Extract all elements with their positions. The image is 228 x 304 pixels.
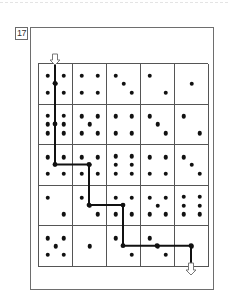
- pip-dot: [130, 253, 135, 258]
- pip-dot: [96, 90, 101, 95]
- pip-dot: [87, 163, 92, 168]
- top-dashed-rule: [0, 2, 228, 3]
- pip-dot: [155, 244, 160, 249]
- pip-dot: [155, 122, 160, 127]
- pip-dot: [80, 171, 85, 176]
- pip-dot: [114, 154, 119, 159]
- die-cell[interactable]: [107, 64, 141, 105]
- pip-dot: [62, 253, 67, 258]
- die-cell[interactable]: [175, 226, 209, 267]
- die-cell[interactable]: [39, 105, 73, 146]
- pip-dot: [96, 171, 101, 176]
- pip-dot: [130, 114, 135, 119]
- pip-dot: [80, 195, 85, 200]
- pip-dot: [148, 155, 153, 160]
- pip-dot: [182, 155, 187, 160]
- pip-dot: [182, 195, 187, 200]
- pip-dot: [148, 236, 153, 241]
- pip-dot: [198, 171, 203, 176]
- pip-dot: [198, 131, 203, 136]
- pip-dot: [114, 171, 119, 176]
- die-cell[interactable]: [175, 105, 209, 146]
- die-cell[interactable]: [141, 105, 175, 146]
- pip-dot: [46, 131, 51, 136]
- die-cell[interactable]: [39, 186, 73, 227]
- die-cell[interactable]: [39, 226, 73, 267]
- pip-dot: [130, 163, 135, 168]
- pip-dot: [53, 82, 58, 87]
- die-cell[interactable]: [107, 226, 141, 267]
- pip-dot: [62, 90, 67, 95]
- pip-dot: [148, 74, 153, 79]
- pip-dot: [46, 74, 51, 79]
- die-cell[interactable]: [141, 186, 175, 227]
- pip-dot: [114, 163, 119, 168]
- pip-dot: [46, 90, 51, 95]
- pip-dot: [164, 253, 169, 258]
- pip-dot: [114, 74, 119, 79]
- pip-dot: [80, 74, 85, 79]
- pip-dot: [164, 155, 169, 160]
- pip-dot: [182, 203, 187, 208]
- pip-dot: [114, 236, 119, 241]
- pip-dot: [87, 122, 92, 127]
- pip-dot: [164, 171, 169, 176]
- pip-dot: [130, 212, 135, 217]
- die-cell[interactable]: [175, 64, 209, 105]
- dice-grid: [38, 63, 208, 267]
- pip-dot: [46, 155, 51, 160]
- pip-dot: [189, 163, 194, 168]
- pip-dot: [96, 131, 101, 136]
- pip-dot: [80, 114, 85, 119]
- die-cell[interactable]: [107, 186, 141, 227]
- pip-dot: [189, 82, 194, 87]
- pip-dot: [46, 171, 51, 176]
- pip-dot: [46, 253, 51, 258]
- pip-dot: [164, 212, 169, 217]
- die-cell[interactable]: [107, 145, 141, 186]
- pip-dot: [114, 131, 119, 136]
- pip-dot: [198, 195, 203, 200]
- pip-dot: [46, 195, 51, 200]
- pip-dot: [182, 114, 187, 119]
- die-cell[interactable]: [73, 64, 107, 105]
- die-cell[interactable]: [141, 64, 175, 105]
- pip-dot: [182, 212, 187, 217]
- pip-dot: [53, 244, 58, 249]
- pip-dot: [96, 114, 101, 119]
- die-cell[interactable]: [73, 105, 107, 146]
- pip-dot: [130, 171, 135, 176]
- pip-dot: [114, 195, 119, 200]
- pip-dot: [130, 154, 135, 159]
- die-cell[interactable]: [39, 64, 73, 105]
- pip-dot: [46, 122, 51, 127]
- puzzle-number-label: 17: [15, 27, 28, 40]
- pip-dot: [46, 113, 51, 118]
- pip-dot: [198, 203, 203, 208]
- die-cell[interactable]: [39, 145, 73, 186]
- pip-dot: [62, 171, 67, 176]
- pip-dot: [62, 131, 67, 136]
- die-cell[interactable]: [175, 186, 209, 227]
- pip-dot: [164, 195, 169, 200]
- pip-dot: [164, 90, 169, 95]
- pip-dot: [155, 203, 160, 208]
- pip-dot: [62, 113, 67, 118]
- die-cell[interactable]: [141, 145, 175, 186]
- pip-dot: [96, 74, 101, 79]
- pip-dot: [189, 244, 194, 249]
- pip-dot: [114, 114, 119, 119]
- pip-dot: [148, 212, 153, 217]
- die-cell[interactable]: [73, 226, 107, 267]
- pip-dot: [62, 236, 67, 241]
- pip-dot: [62, 122, 67, 127]
- pip-dot: [148, 171, 153, 176]
- die-cell[interactable]: [175, 145, 209, 186]
- die-cell[interactable]: [73, 186, 107, 227]
- die-cell[interactable]: [107, 105, 141, 146]
- pip-dot: [114, 212, 119, 217]
- pip-dot: [62, 155, 67, 160]
- pip-dot: [130, 131, 135, 136]
- die-cell[interactable]: [141, 226, 175, 267]
- die-cell[interactable]: [73, 145, 107, 186]
